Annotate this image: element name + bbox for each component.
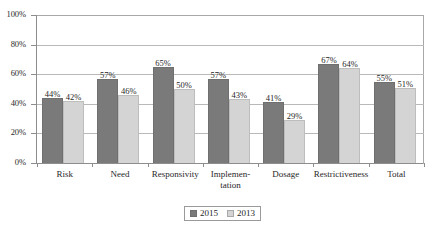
bar-value-label: 51%: [397, 79, 413, 89]
bar-value-label: 46%: [121, 86, 137, 96]
bar-2013-total: 51%: [395, 88, 416, 163]
bar-value-label: 42%: [66, 92, 82, 102]
bar-2013-responsivity: 50%: [174, 89, 195, 163]
bar-group: 41%29%: [258, 15, 313, 163]
x-axis-tick-mark: [148, 163, 149, 167]
bar-2013-implementation: 43%: [229, 99, 250, 163]
bar-group: 67%64%: [313, 15, 368, 163]
x-axis-tick-mark: [424, 163, 425, 167]
bar-value-label: 55%: [376, 73, 392, 83]
bar-value-label: 64%: [342, 59, 358, 69]
y-axis-tick-label: 0%: [15, 158, 26, 167]
x-axis-tick-mark: [37, 163, 38, 167]
legend-label: 2013: [237, 208, 255, 218]
bar-group: 44%42%: [37, 15, 92, 163]
bar-value-label: 50%: [176, 80, 192, 90]
x-axis-tick-mark: [203, 163, 204, 167]
bar-2013-dosage: 29%: [284, 120, 305, 163]
y-axis-tick-label: 60%: [11, 69, 26, 78]
bar-2015-implementation: 57%: [208, 79, 229, 163]
y-axis-tick-label: 100%: [7, 10, 26, 19]
y-axis-tick-label: 40%: [11, 99, 26, 108]
chart-legend: 20152013: [184, 206, 261, 221]
legend-label: 2015: [200, 208, 218, 218]
x-axis-line: [37, 163, 424, 164]
bar-2015-responsivity: 65%: [153, 67, 174, 163]
legend-swatch-icon: [227, 210, 234, 217]
bar-2015-restrictiveness: 67%: [318, 64, 339, 163]
category-label: Total: [361, 169, 432, 180]
bar-2015-total: 55%: [374, 82, 395, 163]
bar-2015-need: 57%: [97, 79, 118, 163]
y-axis-tick-label: 80%: [11, 40, 26, 49]
bar-2013-restrictiveness: 64%: [339, 68, 360, 163]
x-axis-tick-mark: [369, 163, 370, 167]
x-axis-tick-mark: [92, 163, 93, 167]
bar-chart: 0%20%40%60%80%100% 44%42%57%46%65%50%57%…: [0, 0, 434, 237]
legend-entry-2013: 2013: [227, 208, 255, 218]
bar-value-label: 57%: [211, 70, 227, 80]
legend-entry-2015: 2015: [190, 208, 218, 218]
x-axis-tick-mark: [258, 163, 259, 167]
bar-value-label: 29%: [287, 111, 303, 121]
bar-group: 57%43%: [203, 15, 258, 163]
bar-value-label: 67%: [321, 55, 337, 65]
legend-swatch-icon: [190, 210, 197, 217]
bar-2013-need: 46%: [118, 95, 139, 163]
x-axis-tick-mark: [313, 163, 314, 167]
bar-value-label: 57%: [100, 70, 116, 80]
bar-group: 65%50%: [148, 15, 203, 163]
bar-value-label: 41%: [266, 93, 282, 103]
y-axis-tick-label: 20%: [11, 128, 26, 137]
bar-value-label: 43%: [232, 90, 248, 100]
bar-value-label: 65%: [155, 58, 171, 68]
bar-group: 55%51%: [369, 15, 424, 163]
bar-value-label: 44%: [45, 89, 61, 99]
bar-group: 57%46%: [92, 15, 147, 163]
bar-2015-dosage: 41%: [263, 102, 284, 163]
bar-2015-risk: 44%: [42, 98, 63, 163]
bar-2013-risk: 42%: [63, 101, 84, 163]
